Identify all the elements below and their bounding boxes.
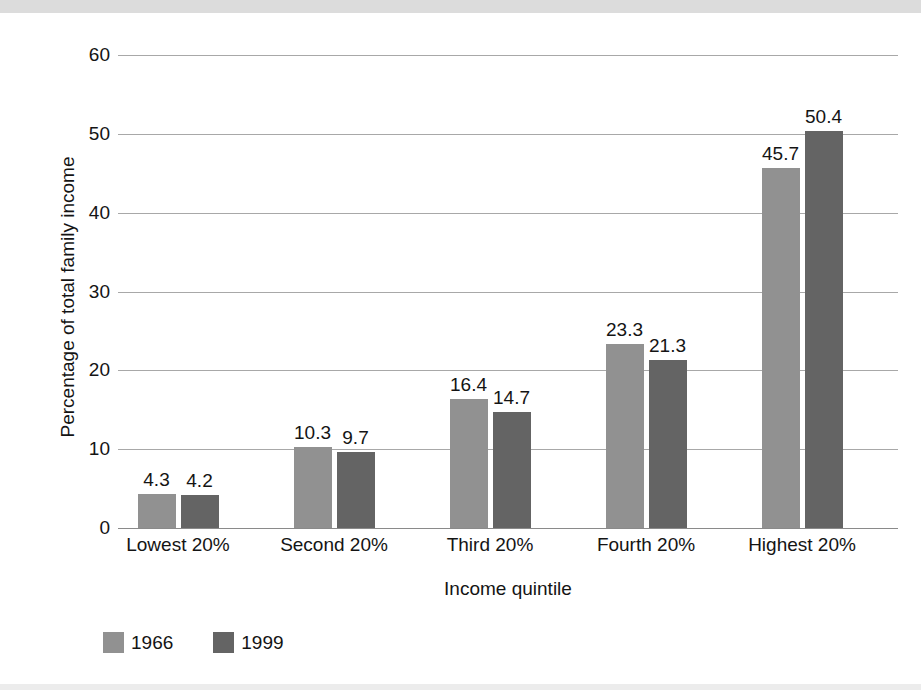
y-tick-label-10: 10 bbox=[50, 439, 110, 458]
y-axis-tick-labels: 0102030405060 bbox=[42, 0, 110, 696]
y-tick-label-30: 30 bbox=[50, 282, 110, 301]
y-tick-label-60: 60 bbox=[50, 45, 110, 64]
x-tick-label-5: Highest 20% bbox=[712, 534, 892, 556]
x-tick-label-2: Second 20% bbox=[244, 534, 424, 556]
y-tick-label-20: 20 bbox=[50, 360, 110, 379]
y-tick-label-40: 40 bbox=[50, 203, 110, 222]
legend-item-1966[interactable]: 1966 bbox=[103, 632, 173, 653]
y-tick-label-50: 50 bbox=[50, 124, 110, 143]
legend-label: 1966 bbox=[131, 633, 173, 652]
x-axis-label: Income quintile bbox=[118, 578, 898, 600]
chart-legend: 19661999 bbox=[103, 632, 284, 653]
legend-label: 1999 bbox=[241, 633, 283, 652]
x-tick-label-4: Fourth 20% bbox=[556, 534, 736, 556]
legend-swatch-icon bbox=[103, 632, 124, 653]
legend-swatch-icon bbox=[213, 632, 234, 653]
x-tick-label-1: Lowest 20% bbox=[88, 534, 268, 556]
chart-figure: Percentage of total family income 010203… bbox=[0, 0, 921, 696]
legend-item-1999[interactable]: 1999 bbox=[213, 632, 283, 653]
x-tick-label-3: Third 20% bbox=[400, 534, 580, 556]
